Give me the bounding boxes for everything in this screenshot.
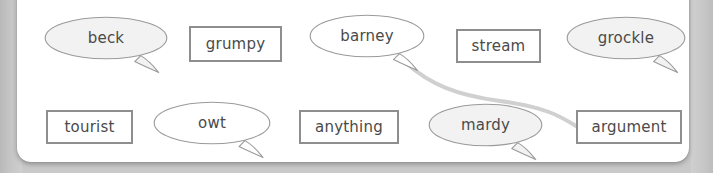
word-tile-label: anything	[315, 120, 383, 135]
word-tile-beck[interactable]: beck	[44, 16, 168, 60]
speech-bubble-icon	[309, 14, 425, 76]
word-tile-barney[interactable]: barney	[309, 14, 425, 58]
word-tile-label: tourist	[65, 120, 115, 135]
word-tile-label: mardy	[461, 118, 510, 133]
word-tile-label: barney	[340, 29, 393, 44]
word-tile-label: owt	[198, 116, 226, 131]
desktop-gutter-right	[691, 0, 713, 173]
word-tile-anything[interactable]: anything	[299, 110, 399, 144]
word-tile-mardy[interactable]: mardy	[428, 103, 543, 147]
speech-bubble-tail-icon	[654, 56, 678, 73]
word-tile-tourist[interactable]: tourist	[46, 110, 133, 144]
speech-bubble-icon	[566, 16, 686, 78]
speech-bubble-tail-icon	[393, 54, 417, 71]
speech-bubble-icon	[153, 101, 271, 163]
speech-bubble-tail-icon	[512, 143, 536, 160]
speech-bubble-tail-icon	[239, 141, 263, 158]
word-tile-stream[interactable]: stream	[456, 29, 541, 63]
word-tile-label: argument	[592, 120, 667, 135]
word-tile-argument[interactable]: argument	[576, 110, 682, 144]
speech-bubble-icon	[44, 16, 168, 78]
word-tile-label: stream	[472, 39, 526, 54]
speech-bubble-tail-icon	[135, 56, 159, 73]
word-tile-grumpy[interactable]: grumpy	[189, 26, 282, 62]
word-tile-owt[interactable]: owt	[153, 101, 271, 145]
word-tile-label: grumpy	[206, 37, 265, 52]
word-tile-grockle[interactable]: grockle	[566, 16, 686, 60]
screenshot-canvas: beckgrumpybarneystreamgrockletouristowta…	[0, 0, 713, 173]
word-tile-label: beck	[88, 31, 124, 46]
speech-bubble-icon	[428, 103, 543, 165]
word-tile-label: grockle	[598, 31, 654, 46]
